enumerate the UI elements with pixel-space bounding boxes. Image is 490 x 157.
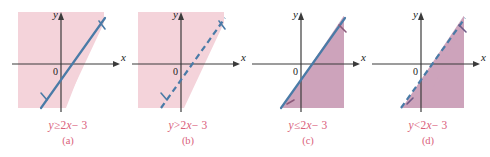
panel-b-origin-label: 0 (173, 66, 178, 77)
panel-d-origin-label: 0 (413, 66, 418, 77)
panel-c-caption-equation: y≤2x− 3 (248, 119, 368, 131)
panel-b-eq-tail: − 3 (192, 119, 208, 131)
panel-c-origin-label: 0 (293, 66, 298, 77)
panel-d-caption-label: (d) (368, 135, 488, 146)
inequality-graphs-figure: y x 0 y≥2x− 3 (a) (0, 0, 490, 157)
panel-c-graph: y x 0 (248, 4, 368, 116)
panel-c-eq-tail: − 3 (312, 119, 328, 131)
panel-b-caption-equation: y>2x− 3 (128, 119, 248, 131)
panel-d-y-axis-label: y (412, 8, 418, 20)
panel-a-eq-tail: − 3 (72, 119, 88, 131)
panel-a-y-axis-label: y (52, 8, 58, 20)
panel-d-caption-equation: y<2x− 3 (368, 119, 488, 131)
panel-b: y x 0 y>2x− 3 (b) (128, 0, 248, 157)
panel-b-x-axis-label: x (240, 51, 246, 63)
panel-d-x-axis-label: x (480, 51, 486, 63)
panel-a-graph: y x 0 (8, 4, 128, 116)
panel-a-caption-label: (a) (8, 135, 128, 146)
panel-d: y x 0 y<2x− 3 (d) (368, 0, 488, 157)
panel-b-svg: y x 0 (128, 4, 248, 116)
panel-a-caption-equation: y≥2x− 3 (8, 119, 128, 131)
panel-b-caption-label: (b) (128, 135, 248, 146)
panel-a: y x 0 y≥2x− 3 (a) (8, 0, 128, 157)
panel-a-origin-label: 0 (53, 66, 58, 77)
panel-d-eq-tail: − 3 (432, 119, 448, 131)
panel-a-x-axis-label: x (120, 51, 126, 63)
panel-d-shaded-region (402, 12, 467, 108)
panel-a-svg: y x 0 (8, 4, 128, 116)
panel-d-graph: y x 0 (368, 4, 488, 116)
panel-b-eq-relation: > (174, 119, 181, 131)
panel-d-svg: y x 0 (368, 4, 488, 116)
panel-c-x-axis-label: x (360, 51, 366, 63)
panel-c-caption-label: (c) (248, 135, 368, 146)
panel-d-eq-relation: < (414, 119, 421, 131)
panel-c-y-axis-label: y (292, 8, 298, 20)
panel-c-svg: y x 0 (248, 4, 368, 116)
panel-b-y-axis-label: y (172, 8, 178, 20)
panel-b-shaded-region (138, 12, 229, 108)
panel-c: y x 0 y≤2x− 3 (c) (248, 0, 368, 157)
panel-b-graph: y x 0 (128, 4, 248, 116)
